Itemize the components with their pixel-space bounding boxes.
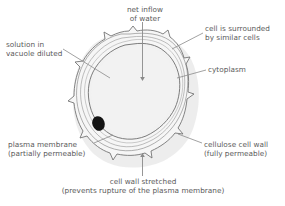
label-solution-in-vacuole-diluted: solution in vacuole diluted <box>6 40 86 58</box>
label-cellulose-cell-wall: cellulose cell wall (fully permeable) <box>204 140 285 158</box>
label-plasma-membrane: plasma membrane (partially permeable) <box>8 140 102 158</box>
label-net-inflow-of-water: net inflow of water <box>104 5 186 23</box>
cell-diagram: net inflow of water cell is surrounded b… <box>0 0 285 206</box>
label-cytoplasm: cytoplasm <box>208 65 278 74</box>
label-cell-is-surrounded: cell is surrounded by similar cells <box>205 24 285 42</box>
leader-surrounded <box>172 33 203 49</box>
label-cell-wall-stretched: cell wall stretched (prevents rupture of… <box>42 177 244 195</box>
